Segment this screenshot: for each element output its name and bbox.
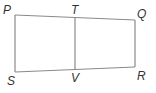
label-r: R (137, 69, 146, 83)
label-v: V (71, 71, 80, 85)
label-p: P (3, 3, 11, 17)
diagram-svg: P T Q R V S (0, 0, 156, 93)
label-t: T (71, 3, 80, 17)
label-s: S (7, 74, 15, 88)
label-q: Q (137, 7, 146, 21)
quadrilateral-diagram: P T Q R V S (0, 0, 156, 93)
